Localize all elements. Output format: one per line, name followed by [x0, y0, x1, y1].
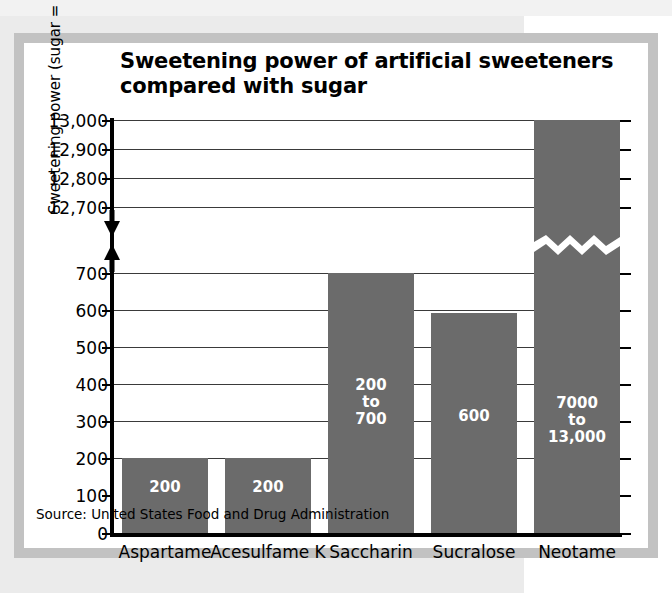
ytick-label-600: 600	[0, 301, 108, 321]
x-axis-line	[110, 533, 622, 537]
ytick-label-100: 100	[0, 486, 108, 506]
chart-card: Sweetening power of artificial sweetener…	[24, 43, 648, 548]
ytick-label-200: 200	[0, 449, 108, 469]
right-tick-700	[620, 273, 631, 275]
axis-break-zigzag-icon	[534, 233, 620, 257]
ytick-label-400: 400	[0, 375, 108, 395]
bar-value-aspartame: 200	[122, 479, 208, 496]
right-tick-200	[620, 458, 631, 460]
category-label-aspartame: Aspartame	[110, 542, 220, 562]
category-label-acesulfame-k: Acesulfame K	[210, 542, 326, 562]
right-tick-500	[620, 347, 631, 349]
right-tick-400	[620, 384, 631, 386]
plot-area: Sweetening power (sugar = 1) 13,000 12,9…	[110, 118, 622, 537]
bar-sucralose[interactable]: 600	[431, 313, 517, 533]
right-tick-13000	[620, 120, 631, 122]
y-axis-line	[110, 118, 114, 537]
right-tick-100	[620, 495, 631, 497]
ytick-label-12700: 12,700	[0, 198, 108, 218]
bar-value-saccharin-line1: 200	[328, 377, 414, 394]
background-plate-top	[0, 0, 672, 16]
right-tick-600	[620, 310, 631, 312]
right-tick-12900	[620, 149, 631, 151]
right-tick-0	[620, 533, 631, 535]
ytick-label-500: 500	[0, 338, 108, 358]
bar-value-neotame-line3: 13,000	[534, 429, 620, 446]
bar-saccharin[interactable]: 200 to 700	[328, 273, 414, 533]
bar-value-acesulfame-k: 200	[225, 479, 311, 496]
bar-value-sucralose: 600	[431, 408, 517, 425]
ytick-label-13000: 13,000	[0, 111, 108, 131]
right-tick-12800	[620, 178, 631, 180]
category-label-saccharin: Saccharin	[323, 542, 419, 562]
category-label-neotame: Neotame	[526, 542, 628, 562]
axis-break-up-arrow-icon	[103, 244, 121, 262]
source-note: Source: United States Food and Drug Admi…	[36, 506, 389, 522]
ytick-label-700: 700	[0, 264, 108, 284]
right-tick-12700	[620, 207, 631, 209]
bar-value-neotame-line2: to	[534, 412, 620, 429]
bar-value-neotame-line1: 7000	[534, 395, 620, 412]
ytick-label-12900: 12,900	[0, 140, 108, 160]
axis-break-down-arrow-icon	[103, 210, 121, 228]
bar-value-saccharin-line3: 700	[328, 411, 414, 428]
bar-value-saccharin-line2: to	[328, 394, 414, 411]
ytick-label-12800: 12,800	[0, 169, 108, 189]
bar-neotame[interactable]: 7000 to 13,000	[534, 120, 620, 533]
chart-title: Sweetening power of artificial sweetener…	[120, 49, 640, 99]
chart-page: Sweetening power of artificial sweetener…	[0, 0, 672, 593]
right-tick-300	[620, 421, 631, 423]
category-label-sucralose: Sucralose	[423, 542, 525, 562]
ytick-label-300: 300	[0, 412, 108, 432]
ytick-label-0: 0	[0, 524, 108, 544]
